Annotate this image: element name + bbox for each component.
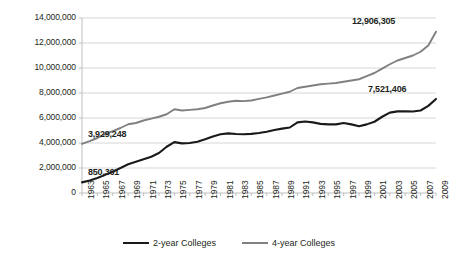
x-axis-label: 2003 [394, 180, 404, 199]
x-axis-label: 1991 [301, 180, 311, 199]
x-axis-label: 1967 [117, 180, 127, 199]
x-axis-label: 1963 [86, 180, 96, 199]
y-axis-label: 4,000,000 [39, 137, 76, 147]
x-axis-label: 1971 [148, 180, 158, 199]
x-axis-label: 1985 [255, 180, 265, 199]
x-axis-label: 2001 [378, 180, 388, 199]
x-axis-label: 1975 [178, 180, 188, 199]
x-axis-label: 1981 [225, 180, 235, 199]
data-point-label: 12,906,305 [352, 16, 395, 26]
x-axis-label: 2007 [425, 180, 435, 199]
y-axis-label: 2,000,000 [39, 162, 76, 172]
x-axis-label: 1979 [209, 180, 219, 199]
legend-label: 2-year Colleges [153, 238, 216, 248]
data-point-label: 850,361 [88, 167, 119, 177]
x-axis-label: 1987 [271, 180, 281, 199]
data-point-label: 7,521,406 [368, 84, 406, 94]
chart-legend: 2-year Colleges4-year Colleges [0, 238, 458, 248]
x-axis-label: 2009 [440, 180, 450, 199]
legend-item[interactable]: 2-year Colleges [123, 238, 216, 248]
y-axis-label: 6,000,000 [39, 112, 76, 122]
line-chart: 14,000,00012,000,00010,000,0008,000,0006… [0, 0, 458, 261]
x-axis-label: 1973 [163, 180, 173, 199]
legend-color-swatch [242, 242, 268, 244]
legend-item[interactable]: 4-year Colleges [242, 238, 335, 248]
series-line [82, 99, 436, 182]
y-axis-label: 10,000,000 [34, 62, 76, 72]
data-point-label: 3,929,248 [88, 129, 126, 139]
x-axis-label: 1993 [317, 180, 327, 199]
x-axis-label: 1999 [363, 180, 373, 199]
x-axis-label: 1965 [101, 180, 111, 199]
legend-color-swatch [123, 242, 149, 244]
x-axis-label: 1977 [194, 180, 204, 199]
y-axis-label: 8,000,000 [39, 87, 76, 97]
legend-label: 4-year Colleges [272, 238, 335, 248]
x-axis-label: 1995 [332, 180, 342, 199]
x-axis-label: 1997 [348, 180, 358, 199]
y-axis-label: 12,000,000 [34, 37, 76, 47]
y-axis-label: 0 [71, 187, 76, 197]
x-axis-label: 1989 [286, 180, 296, 199]
x-axis-label: 1969 [132, 180, 142, 199]
x-axis-label: 1983 [240, 180, 250, 199]
x-axis-label: 2005 [409, 180, 419, 199]
y-axis-label: 14,000,000 [34, 12, 76, 22]
